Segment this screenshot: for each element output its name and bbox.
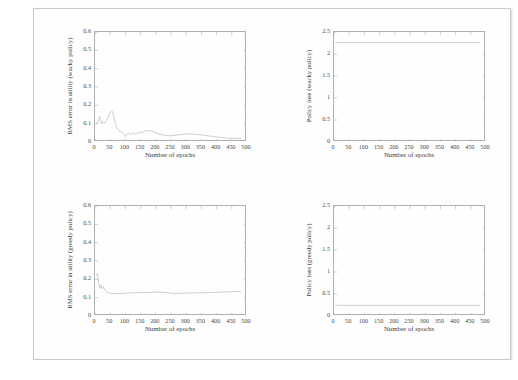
x-axis-tick-label: 150	[374, 144, 383, 150]
x-axis-tick-label: 100	[120, 144, 129, 150]
y-axis-tick-label: 0.5	[322, 116, 330, 122]
x-axis-tick-label: 0	[331, 318, 334, 324]
x-axis-tick-label: 400	[211, 318, 220, 324]
x-axis-tick-label: 200	[389, 144, 398, 150]
y-axis-label-bottom-right: Policy loss (greedy policy)	[303, 205, 315, 315]
y-axis-tick-label: 1.5	[322, 72, 330, 78]
y-axis-tick-label: 0	[88, 312, 91, 318]
y-axis-tick-label: 0.5	[322, 290, 330, 296]
y-axis-tick-label: 0.4	[83, 65, 91, 71]
x-axis-tick-label: 400	[450, 318, 459, 324]
y-axis-tick-label: 0.6	[83, 202, 91, 208]
x-axis-tick-label: 0	[92, 318, 95, 324]
x-axis-tick-label: 350	[196, 144, 205, 150]
y-axis-tick-label: 2	[327, 224, 330, 230]
y-axis-tick-label: 2.5	[322, 28, 330, 34]
y-axis-tick-label: 1.5	[322, 246, 330, 252]
tick-host-top-right: 00.511.522.50501001502002503003504004505…	[333, 31, 485, 141]
x-axis-tick-label: 350	[196, 318, 205, 324]
x-axis-label-top-right: Number of epochs	[333, 152, 485, 159]
x-axis-tick-label: 500	[241, 318, 250, 324]
x-axis-tick-label: 450	[226, 318, 235, 324]
x-axis-tick-label: 500	[241, 144, 250, 150]
x-axis-tick-label: 50	[345, 144, 351, 150]
y-axis-tick-label: 0.2	[83, 275, 91, 281]
x-axis-tick-label: 400	[211, 144, 220, 150]
y-axis-tick-label: 0.2	[83, 101, 91, 107]
x-axis-tick-label: 50	[106, 318, 112, 324]
y-axis-tick-label: 0.3	[83, 83, 91, 89]
x-axis-tick-label: 350	[435, 318, 444, 324]
tick-host-top-left: 00.10.20.30.40.50.6050100150200250300350…	[94, 31, 246, 141]
y-axis-tick-label: 0.6	[83, 28, 91, 34]
x-axis-tick-label: 250	[404, 318, 413, 324]
x-axis-tick-label: 400	[450, 144, 459, 150]
x-axis-label-top-left: Number of epochs	[94, 152, 246, 159]
y-axis-tick-label: 1	[327, 268, 330, 274]
page-bottom-margin	[0, 360, 518, 380]
x-axis-tick-label: 200	[389, 318, 398, 324]
y-axis-tick-label: 2	[327, 50, 330, 56]
y-axis-tick-label: 0	[327, 138, 330, 144]
plot-panel-bottom-left: 00.10.20.30.40.50.6050100150200250300350…	[34, 183, 273, 357]
x-axis-tick-label: 450	[465, 144, 474, 150]
x-axis-tick-label: 300	[420, 318, 429, 324]
x-axis-tick-label: 200	[150, 318, 159, 324]
y-axis-tick-label: 0.1	[83, 120, 91, 126]
x-axis-tick-label: 50	[345, 318, 351, 324]
y-axis-label-top-right: Policy loss (wacky policy)	[303, 31, 315, 141]
x-axis-label-bottom-right: Number of epochs	[333, 326, 485, 333]
x-axis-tick-label: 100	[359, 318, 368, 324]
plot-panel-top-right: 00.511.522.50501001502002503003504004505…	[273, 9, 512, 183]
x-axis-tick-label: 300	[420, 144, 429, 150]
y-axis-tick-label: 0.5	[83, 46, 91, 52]
x-axis-tick-label: 250	[165, 318, 174, 324]
tick-host-bottom-right: 00.511.522.50501001502002503003504004505…	[333, 205, 485, 315]
x-axis-tick-label: 300	[181, 144, 190, 150]
x-axis-tick-label: 150	[135, 318, 144, 324]
x-axis-label-bottom-left: Number of epochs	[94, 326, 246, 333]
x-axis-tick-label: 250	[404, 144, 413, 150]
x-axis-tick-label: 450	[465, 318, 474, 324]
y-axis-tick-label: 0.1	[83, 294, 91, 300]
plot-panel-top-left: 00.10.20.30.40.50.6050100150200250300350…	[34, 9, 273, 183]
x-axis-tick-label: 250	[165, 144, 174, 150]
y-axis-tick-label: 0.5	[83, 220, 91, 226]
y-axis-tick-label: 2.5	[322, 202, 330, 208]
plot-panel-bottom-right: 00.511.522.50501001502002503003504004505…	[273, 183, 512, 357]
y-axis-tick-label: 0.4	[83, 239, 91, 245]
page-left-margin	[0, 0, 33, 380]
y-axis-label-bottom-left: RMS error in utility (greedy policy)	[64, 205, 76, 315]
x-axis-tick-label: 100	[359, 144, 368, 150]
scanned-page-sheet: 00.10.20.30.40.50.6050100150200250300350…	[33, 8, 511, 360]
y-axis-tick-label: 0.3	[83, 257, 91, 263]
y-axis-tick-label: 1	[327, 94, 330, 100]
y-axis-tick-label: 0	[327, 312, 330, 318]
y-axis-label-top-left: RMS error in utility (wacky policy)	[64, 31, 76, 141]
x-axis-tick-label: 200	[150, 144, 159, 150]
figure-plot-grid: 00.10.20.30.40.50.6050100150200250300350…	[34, 9, 512, 357]
x-axis-tick-label: 500	[480, 144, 489, 150]
x-axis-tick-label: 100	[120, 318, 129, 324]
tick-host-bottom-left: 00.10.20.30.40.50.6050100150200250300350…	[94, 205, 246, 315]
x-axis-tick-label: 300	[181, 318, 190, 324]
x-axis-tick-label: 500	[480, 318, 489, 324]
x-axis-tick-label: 450	[226, 144, 235, 150]
x-axis-tick-label: 350	[435, 144, 444, 150]
x-axis-tick-label: 150	[135, 144, 144, 150]
x-axis-tick-label: 0	[331, 144, 334, 150]
y-axis-tick-label: 0	[88, 138, 91, 144]
x-axis-tick-label: 150	[374, 318, 383, 324]
x-axis-tick-label: 50	[106, 144, 112, 150]
x-axis-tick-label: 0	[92, 144, 95, 150]
